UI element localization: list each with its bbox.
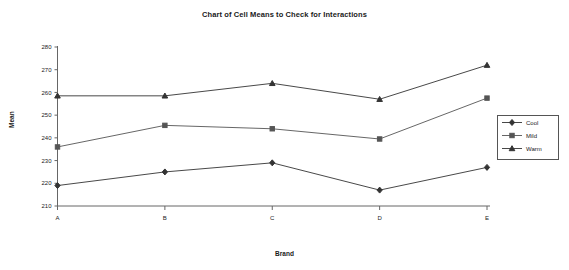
x-tick-label: C — [270, 215, 275, 221]
data-point-diamond — [484, 164, 489, 170]
y-tick-label: 230 — [41, 158, 52, 164]
legend-swatch-diamond-icon — [501, 118, 523, 127]
data-point-diamond — [377, 187, 382, 193]
legend-item-mild[interactable]: Mild — [498, 129, 558, 142]
legend-label: Cool — [526, 120, 538, 126]
y-tick-label: 220 — [41, 180, 52, 186]
y-tick-label: 280 — [41, 44, 52, 50]
legend-item-cool[interactable]: Cool — [498, 116, 558, 129]
y-tick-label: 260 — [41, 90, 52, 96]
legend-label: Mild — [526, 133, 537, 139]
data-point-square — [163, 123, 167, 127]
legend-swatch-square-icon — [501, 131, 523, 140]
data-point-diamond — [270, 160, 275, 166]
data-point-diamond — [509, 120, 514, 126]
plot-area: 210220230240250260270280ABCDE — [0, 0, 569, 270]
data-point-triangle — [377, 96, 383, 101]
data-point-square — [270, 127, 274, 131]
x-tick-label: A — [55, 215, 59, 221]
y-tick-label: 270 — [41, 67, 52, 73]
y-tick-label: 250 — [41, 112, 52, 118]
legend-swatch-triangle-icon — [501, 144, 523, 153]
data-point-triangle — [484, 62, 490, 67]
x-tick-label: D — [377, 215, 382, 221]
data-point-diamond — [162, 169, 167, 175]
x-tick-label: B — [163, 215, 167, 221]
data-point-triangle — [509, 146, 515, 151]
x-tick-label: E — [485, 215, 489, 221]
series-warm — [55, 62, 490, 101]
data-point-triangle — [269, 81, 275, 86]
data-point-square — [377, 137, 381, 141]
legend-label: Warm — [526, 146, 542, 152]
data-point-square — [55, 145, 59, 149]
chart-legend: CoolMildWarm — [497, 115, 559, 160]
data-point-triangle — [55, 93, 61, 98]
chart-container: Chart of Cell Means to Check for Interac… — [0, 0, 569, 270]
y-tick-label: 210 — [41, 203, 52, 209]
legend-item-warm[interactable]: Warm — [498, 142, 558, 155]
series-mild — [55, 96, 489, 149]
data-point-square — [485, 96, 489, 100]
y-tick-label: 240 — [41, 135, 52, 141]
data-point-triangle — [162, 93, 168, 98]
data-point-square — [510, 133, 514, 137]
series-cool — [55, 160, 490, 193]
